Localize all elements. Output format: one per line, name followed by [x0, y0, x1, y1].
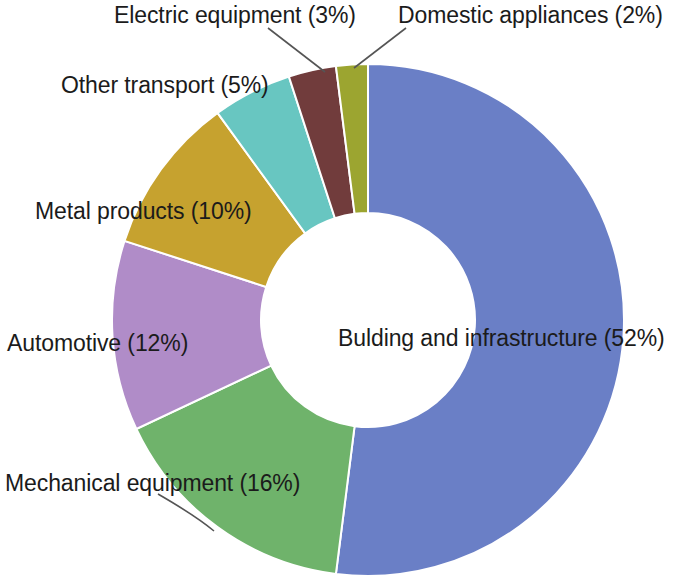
slice-label-metal-products: Metal products (10%) — [35, 198, 252, 224]
leader-line-domestic-appliances — [354, 28, 406, 68]
donut-slice-bulding-and-infrastructure[interactable] — [336, 64, 624, 576]
slice-label-automotive: Automotive (12%) — [7, 330, 188, 356]
slice-label-other-transport: Other transport (5%) — [61, 72, 269, 98]
slice-label-building-and-infrastructure: Bulding and infrastructure (52%) — [338, 325, 665, 351]
slice-label-mechanical-equipment: Mechanical equipment (16%) — [5, 470, 300, 496]
slice-label-electric-equipment: Electric equipment (3%) — [114, 2, 356, 28]
donut-chart: Electric equipment (3%) Domestic applian… — [0, 0, 687, 585]
slice-label-domestic-appliances: Domestic appliances (2%) — [398, 2, 663, 28]
leader-line-electric-equipment — [268, 28, 325, 72]
donut-slices — [112, 64, 624, 576]
